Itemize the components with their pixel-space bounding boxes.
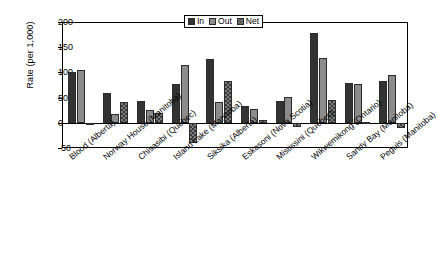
legend-item-in: In [188,17,204,26]
y-axis-title: Rate (per 1,000) [25,0,35,115]
legend-item-out: Out [209,17,232,26]
legend-swatch-in-icon [188,18,195,25]
y-axis-tick-mark [58,148,62,149]
bar-out [77,70,85,123]
legend-swatch-out-icon [209,18,216,25]
legend-item-net: Net [237,17,259,26]
bar-net [86,123,94,125]
bar-in [68,72,76,122]
y-axis-tick-mark [58,123,62,124]
legend-label-in: In [197,17,204,26]
bar-net [259,120,267,123]
legend-swatch-net-icon [237,18,244,25]
y-axis-tick-mark [58,47,62,48]
bar-net [362,122,370,124]
legend-label-out: Out [218,17,232,26]
bar-net [293,123,301,128]
bar-net [120,102,128,123]
y-axis-tick-mark [58,98,62,99]
legend-label-net: Net [246,17,259,26]
bar-in [206,59,214,123]
bar-net [397,123,405,129]
y-axis-tick-mark [58,72,62,73]
y-axis-tick-mark [58,22,62,23]
chart-legend: In Out Net [184,15,263,28]
bar-in [310,33,318,123]
